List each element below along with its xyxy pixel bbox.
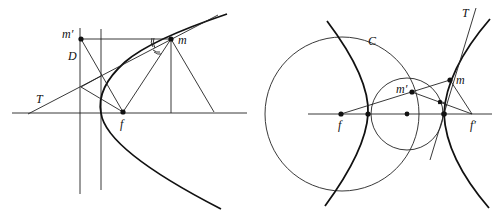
center-point xyxy=(405,112,410,117)
focus-point xyxy=(120,109,125,114)
focus-label: f xyxy=(120,117,125,131)
foot-point xyxy=(438,100,442,104)
angle-arc-3 xyxy=(153,50,160,52)
tangent-label: T xyxy=(462,6,470,20)
directrix-to-focus-line xyxy=(81,87,123,112)
circle-c-label: C xyxy=(368,34,377,48)
m-label: m xyxy=(456,73,465,87)
m-to-focus-line xyxy=(123,39,171,112)
m-prime-to-focus-line xyxy=(81,39,123,112)
normal-line xyxy=(171,39,214,112)
hyperbola-left-branch xyxy=(325,21,368,206)
focus-point xyxy=(338,111,343,116)
geometry-diagram: m′ m D T f C T m m′ f f′ xyxy=(0,0,498,224)
m-prime-point xyxy=(409,89,414,94)
hyperbola-right-branch xyxy=(444,19,490,208)
m-label: m xyxy=(178,33,187,47)
m-point xyxy=(168,36,173,41)
m-prime-to-f-prime-line xyxy=(412,92,472,114)
directrix-label: D xyxy=(67,49,77,63)
focus-prime-label: f′ xyxy=(470,118,476,132)
m-prime-label: m′ xyxy=(396,82,408,96)
parabola-figure: m′ m D T f xyxy=(12,14,247,209)
m-point xyxy=(447,77,452,82)
tangent-line xyxy=(28,15,218,114)
m-prime-label: m′ xyxy=(62,27,74,41)
right-vertex-point xyxy=(441,111,447,117)
directrix-tangent-segment xyxy=(81,76,101,87)
left-vertex-point xyxy=(365,111,370,116)
hyperbola-figure: C T m m′ f f′ xyxy=(265,6,492,208)
focus-label: f xyxy=(338,118,343,132)
m-prime-point xyxy=(78,36,83,41)
tangent-label: T xyxy=(36,92,44,106)
